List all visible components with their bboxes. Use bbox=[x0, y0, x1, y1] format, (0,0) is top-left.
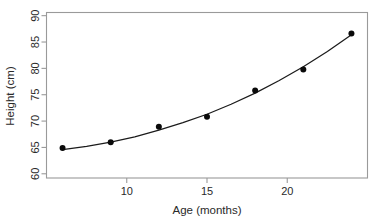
x-tick-label-15: 15 bbox=[201, 185, 213, 197]
y-tick-label-65: 65 bbox=[29, 141, 41, 153]
y-tick-label-60: 60 bbox=[29, 168, 41, 180]
x-axis-title: Age (months) bbox=[172, 204, 241, 216]
scatter-plot-canvas: 60 65 70 75 80 85 90 10 15 20 Age (month… bbox=[0, 0, 381, 224]
data-point-21mo bbox=[300, 66, 306, 72]
y-axis-title: Height (cm) bbox=[4, 66, 16, 126]
y-tick-label-90: 90 bbox=[29, 10, 41, 22]
y-tick-label-75: 75 bbox=[29, 89, 41, 101]
y-axis-ticks bbox=[42, 16, 47, 174]
y-tick-label-70: 70 bbox=[29, 115, 41, 127]
x-tick-label-10: 10 bbox=[121, 185, 133, 197]
y-tick-label-85: 85 bbox=[29, 36, 41, 48]
chart-figure: 60 65 70 75 80 85 90 10 15 20 Age (month… bbox=[0, 0, 381, 224]
x-tick-label-20: 20 bbox=[281, 185, 293, 197]
x-axis-ticks bbox=[127, 178, 288, 183]
data-point-24mo bbox=[348, 31, 354, 37]
data-point-18mo bbox=[252, 88, 258, 94]
data-point-15mo bbox=[204, 114, 210, 120]
plot-background bbox=[47, 13, 368, 179]
y-axis-tick-labels: 60 65 70 75 80 85 90 bbox=[29, 10, 41, 180]
data-point-12mo bbox=[156, 124, 162, 130]
x-axis-tick-labels: 10 15 20 bbox=[121, 185, 294, 197]
data-point-6mo bbox=[60, 145, 66, 151]
data-point-9mo bbox=[108, 139, 114, 145]
y-tick-label-80: 80 bbox=[29, 62, 41, 74]
